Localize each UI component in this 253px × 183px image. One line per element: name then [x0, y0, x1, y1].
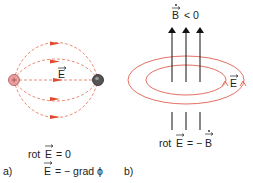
arrow-icon — [50, 60, 60, 64]
svg-text:B: B — [172, 9, 179, 21]
svg-text:E: E — [44, 165, 51, 177]
magnetic-flux-lower — [172, 112, 200, 130]
electric-field-diagram: E rot E = 0 a) E = − grad ϕ B < 0 — [0, 0, 253, 183]
panel-a: E rot E = 0 a) E = − grad ϕ — [3, 42, 104, 178]
svg-text:= −: = − — [187, 137, 202, 149]
field-label-a: E — [58, 67, 66, 81]
svg-text:rot: rot — [159, 137, 171, 149]
equation-gradient: E = − grad ϕ — [44, 162, 103, 178]
svg-text:E: E — [176, 137, 183, 149]
svg-text:E: E — [230, 77, 237, 89]
equation-faraday: rot E = − B — [159, 130, 213, 149]
svg-text:E: E — [58, 68, 65, 80]
svg-text:rot: rot — [28, 148, 40, 160]
arrow-icon — [50, 115, 60, 119]
panel-b-label: b) — [124, 165, 133, 177]
svg-text:= 0: = 0 — [56, 148, 71, 160]
negative-charge — [93, 75, 104, 86]
field-line-bottom-inner — [14, 80, 98, 101]
positive-charge — [9, 75, 20, 86]
field-label-b: E — [230, 75, 238, 90]
panel-b: B < 0 E rot — [124, 4, 246, 177]
arrow-icon — [50, 97, 60, 101]
b-dot-label: B < 0 — [172, 4, 199, 21]
svg-text:B: B — [205, 137, 212, 149]
equation-rot-e-zero: rot E = 0 — [28, 145, 71, 161]
panel-a-label: a) — [3, 165, 12, 177]
svg-text:E: E — [45, 148, 52, 160]
svg-text:< 0: < 0 — [184, 9, 199, 21]
svg-text:= − grad ϕ: = − grad ϕ — [55, 165, 103, 177]
